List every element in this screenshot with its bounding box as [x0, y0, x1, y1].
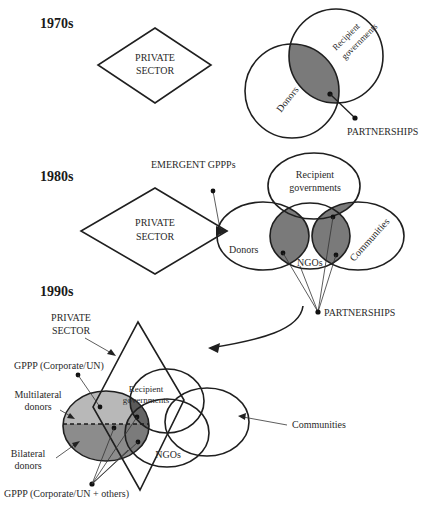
private-sector-label-line2: SECTOR: [52, 325, 90, 336]
private-sector-label-line2: SECTOR: [136, 231, 174, 242]
era-1980s: 1980s EMERGENT GPPPs PRIVATE SECTOR Reci…: [40, 153, 404, 353]
private-sector-label-line1: PRIVATE: [135, 52, 175, 63]
communities-label-1990s: Communities: [292, 419, 346, 430]
emergent-gppps-label: EMERGENT GPPPs: [151, 159, 236, 170]
donors-label: Donors: [274, 84, 301, 114]
transition-arrow: [210, 306, 303, 348]
gppp-evolution-diagram: 1970s PRIVATE SECTOR Donors Recipient go…: [0, 0, 424, 513]
gppp-corporate-un-label: GPPP (Corporate/UN): [14, 360, 104, 372]
recipient-label-line2: governments: [289, 182, 341, 193]
ngos-label: NGOs: [297, 257, 323, 268]
private-sector-label-line1: PRIVATE: [51, 312, 91, 323]
multilateral-donors-label-line1: Multilateral: [14, 389, 61, 400]
ngos-label-1990s: NGOs: [155, 449, 181, 460]
era-1990s: 1990s PRIVATE SECTOR GPPP (Corporate/UN)…: [4, 284, 346, 500]
gppp-corporate-un-others-label: GPPP (Corporate/UN + others): [4, 488, 129, 500]
private-sector-diamond-1980s: PRIVATE SECTOR: [81, 188, 227, 274]
bilateral-donors-label-line2: donors: [14, 460, 41, 471]
private-sector-diamond-1970s: PRIVATE SECTOR: [98, 28, 211, 103]
recipient-label-line2: governments: [123, 395, 170, 405]
era-label-1990s: 1990s: [40, 284, 74, 299]
communities-label: Communities: [347, 216, 391, 263]
partnerships-dot-1980s: [315, 309, 320, 314]
partnership-endpoint-dot: [352, 115, 357, 120]
emergent-gppp-pointer: [211, 189, 228, 236]
partnerships-label-1970s: PARTNERSHIPS: [347, 126, 418, 137]
transition-arrowhead: [208, 343, 220, 353]
recipient-label-line1: Recipient: [129, 384, 164, 394]
bilateral-donors-label-line1: Bilateral: [11, 448, 46, 459]
recipient-label-line1: Recipient: [296, 169, 335, 180]
private-sector-label-line1: PRIVATE: [135, 217, 175, 228]
venn-1970s: Donors Recipient governments PARTNERSHIP…: [245, 9, 418, 138]
multilateral-donors-label-line2: donors: [24, 401, 51, 412]
venn-1980s: Recipient governments Donors NGOs Commun…: [217, 153, 404, 318]
era-label-1980s: 1980s: [40, 169, 74, 184]
partnerships-label-1980s: PARTNERSHIPS: [324, 307, 395, 318]
era-1970s: 1970s PRIVATE SECTOR Donors Recipient go…: [40, 9, 418, 138]
era-label-1970s: 1970s: [40, 16, 74, 31]
donors-label: Donors: [229, 244, 259, 255]
private-sector-label-line2: SECTOR: [136, 65, 174, 76]
